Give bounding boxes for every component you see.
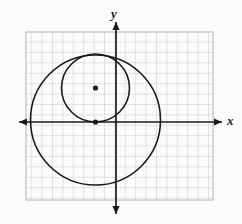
x-axis-left-arrowhead <box>19 118 27 125</box>
grid-group <box>26 32 213 200</box>
tangent-point-on-x-axis <box>93 119 98 124</box>
plot-canvas <box>0 0 242 224</box>
coordinate-plane-figure: y x <box>0 0 242 224</box>
x-axis-label: x <box>227 114 234 127</box>
small-circle-center-point <box>93 85 98 90</box>
y-axis-down-arrowhead <box>112 206 119 214</box>
grid-area <box>26 32 213 200</box>
y-axis-label: y <box>111 7 117 20</box>
x-axis-right-arrowhead <box>214 118 222 125</box>
y-axis-up-arrowhead <box>112 22 119 30</box>
